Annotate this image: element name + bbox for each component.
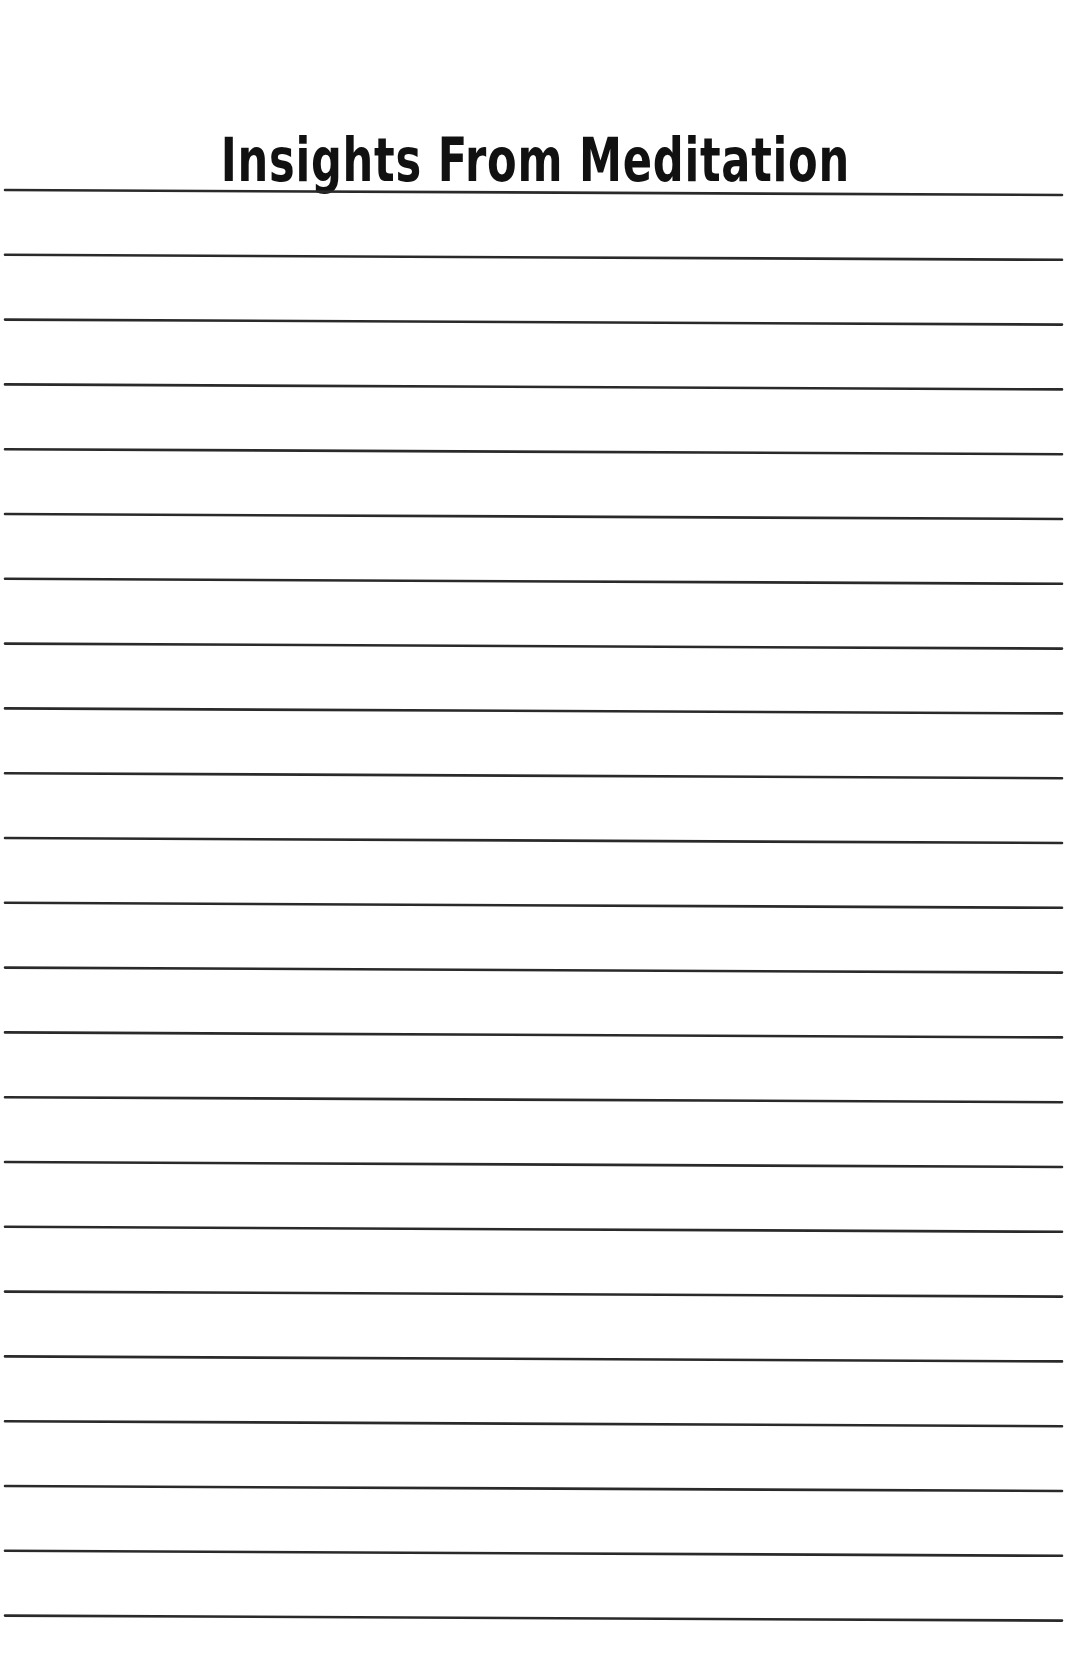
writing-line bbox=[5, 1227, 1062, 1232]
writing-line bbox=[5, 1486, 1062, 1491]
writing-line bbox=[5, 255, 1062, 260]
writing-line bbox=[5, 903, 1062, 908]
writing-line bbox=[5, 449, 1062, 454]
writing-line bbox=[5, 1356, 1062, 1361]
writing-line bbox=[5, 1421, 1062, 1426]
writing-line bbox=[5, 514, 1062, 519]
writing-line bbox=[5, 773, 1062, 778]
writing-line bbox=[5, 708, 1062, 713]
writing-line bbox=[5, 1162, 1062, 1167]
writing-line bbox=[5, 1097, 1062, 1102]
writing-line bbox=[5, 1616, 1062, 1621]
writing-line bbox=[5, 190, 1062, 195]
ruled-lines bbox=[0, 0, 1067, 1661]
writing-line bbox=[5, 1551, 1062, 1556]
writing-line bbox=[5, 579, 1062, 584]
writing-line bbox=[5, 320, 1062, 325]
writing-line bbox=[5, 1292, 1062, 1297]
writing-line bbox=[5, 384, 1062, 389]
journal-page: Insights From Meditation bbox=[0, 0, 1067, 1661]
writing-line bbox=[5, 1032, 1062, 1037]
writing-line bbox=[5, 838, 1062, 843]
writing-line bbox=[5, 644, 1062, 649]
writing-line bbox=[5, 968, 1062, 973]
